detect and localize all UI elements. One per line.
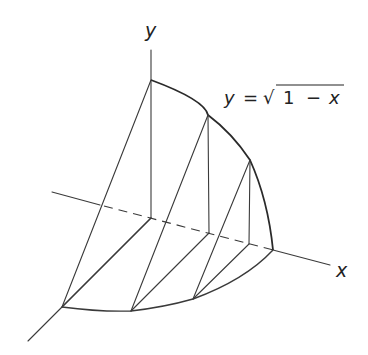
section-3-front-slant [193,160,250,299]
equation-equals: = [243,87,258,108]
x-axis-front [273,250,330,265]
x-axis-label: x [335,259,348,281]
x-axis-back [52,192,100,205]
equation-minus: − [306,87,321,108]
equation-x: x [328,87,340,108]
equation-radical: √ [263,87,275,108]
section-2-front-slant [131,115,208,311]
section-1-front-slant [62,80,151,307]
equation-lhs: y [223,87,235,108]
section-2-vertical [208,115,209,233]
section-3-base [193,244,249,299]
equation-label: y = √ 1 − x [223,85,344,108]
section-3-vertical [249,160,250,244]
section-2-base [131,233,209,311]
x-axis-hidden-dashed [104,206,273,250]
equation-one: 1 [283,87,294,108]
solid-cross-section-diagram: y x y = √ 1 − x [0,0,368,355]
y-axis-label: y [144,19,157,41]
base-arc [62,250,273,311]
